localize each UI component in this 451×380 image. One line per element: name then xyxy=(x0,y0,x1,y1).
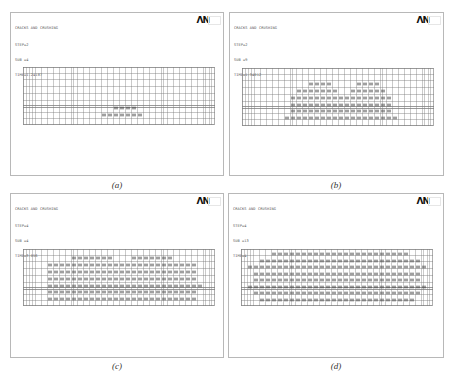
substep-label: SUB =4 xyxy=(15,239,58,244)
caption-b: (b) xyxy=(316,180,356,190)
logo-decoration xyxy=(428,16,441,25)
step-label: STEP=2 xyxy=(234,43,277,48)
step-label: STEP=4 xyxy=(233,224,276,229)
logo-decoration xyxy=(208,197,221,206)
panel-title: CRACKS AND CRUSHING xyxy=(234,26,277,31)
panel-title: CRACKS AND CRUSHING xyxy=(233,207,276,212)
mesh-plot-c xyxy=(23,249,215,306)
panel-title: CRACKS AND CRUSHING xyxy=(15,26,58,31)
substep-label: SUB =4 xyxy=(15,58,58,63)
caption-d: (d) xyxy=(316,361,356,371)
panel-a: CRACKS AND CRUSHING STEP=2 SUB =4 TIME=1… xyxy=(10,12,224,176)
mesh-plot-b xyxy=(242,68,434,126)
panel-d: CRACKS AND CRUSHING STEP=4 SUB =13 TIME=… xyxy=(228,193,444,358)
mesh-plot-d xyxy=(241,249,433,306)
logo-decoration xyxy=(428,197,441,206)
step-label: STEP=2 xyxy=(15,43,58,48)
panel-c: CRACKS AND CRUSHING STEP=4 SUB =4 TIME=3… xyxy=(10,193,224,358)
panel-title: CRACKS AND CRUSHING xyxy=(15,207,58,212)
caption-c: (c) xyxy=(97,361,137,371)
step-label: STEP=4 xyxy=(15,224,58,229)
substep-label: SUB =9 xyxy=(234,58,277,63)
logo-decoration xyxy=(208,16,221,25)
mesh-plot-a xyxy=(23,67,215,125)
panel-b: CRACKS AND CRUSHING STEP=2 SUB =9 TIME=1… xyxy=(229,12,444,176)
substep-label: SUB =13 xyxy=(233,239,276,244)
caption-a: (a) xyxy=(97,180,137,190)
